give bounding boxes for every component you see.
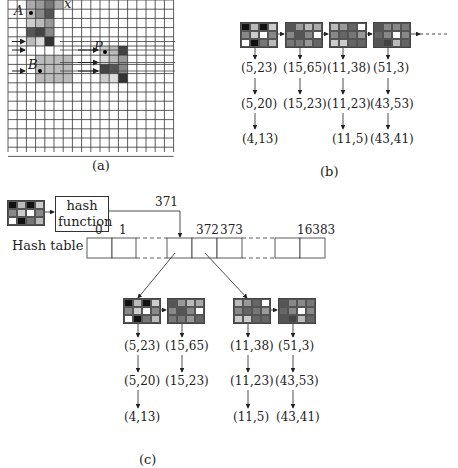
patch-cell <box>124 315 133 323</box>
shaded-cell <box>63 74 72 83</box>
patch-cell <box>17 201 26 209</box>
shaded-cell <box>45 64 54 73</box>
feature-patch <box>167 298 205 324</box>
hash-table-cell <box>300 238 325 258</box>
chain-entry: (4,13) <box>242 132 278 146</box>
patch-cell <box>304 23 313 31</box>
shaded-cell <box>36 18 45 27</box>
patch-cell <box>8 209 17 217</box>
shaded-cell <box>45 74 54 83</box>
patch-cell <box>252 307 261 315</box>
patch-cell <box>177 307 186 315</box>
hash-value: 371 <box>155 195 178 209</box>
patch-cell <box>286 23 295 31</box>
patch-cell <box>234 299 243 307</box>
patch-cell <box>357 23 366 31</box>
patch-cell <box>297 315 306 323</box>
chain-entry: (51,3) <box>373 61 409 75</box>
shaded-cell <box>45 9 54 18</box>
shaded-cell <box>26 28 35 37</box>
patch-cell <box>348 31 357 39</box>
feature-patch <box>373 22 411 48</box>
shaded-cell <box>45 0 54 9</box>
patch-cell <box>297 307 306 315</box>
query-patch <box>7 200 45 226</box>
shaded-cell <box>45 18 54 27</box>
shaded-cell <box>26 37 35 46</box>
patch-cell <box>348 23 357 31</box>
patch-cell <box>392 39 401 47</box>
patch-cell <box>250 31 259 39</box>
patch-cell <box>168 315 177 323</box>
feature-patch <box>240 22 278 48</box>
patch-cell <box>268 23 277 31</box>
patch-cell <box>288 315 297 323</box>
patch-cell <box>304 39 313 47</box>
patch-cell <box>186 307 195 315</box>
patch-cell <box>339 39 348 47</box>
patch-cell <box>313 39 322 47</box>
shaded-cell <box>63 55 72 64</box>
shaded-cell <box>26 0 35 9</box>
feature-patch <box>285 22 323 48</box>
patch-cell <box>142 299 151 307</box>
patch-cell <box>17 209 26 217</box>
caption-c: (c) <box>139 452 156 467</box>
point-label-p: P <box>94 40 103 53</box>
chain-entry: (43,53) <box>275 374 319 388</box>
chain-entry: (5,20) <box>241 97 277 111</box>
patch-cell <box>142 315 151 323</box>
patch-cell <box>252 299 261 307</box>
bucket-pointer-arrow <box>138 253 175 298</box>
patch-cell <box>261 315 270 323</box>
shaded-cell <box>36 9 45 18</box>
shaded-cell <box>54 74 63 83</box>
patch-cell <box>383 31 392 39</box>
caption-b: (b) <box>320 164 338 179</box>
index-label-372: 372 <box>196 223 219 237</box>
patch-cell <box>286 39 295 47</box>
patch-cell <box>261 299 270 307</box>
shaded-cell <box>118 74 127 83</box>
shaded-cell <box>118 46 127 55</box>
shaded-cell <box>36 74 45 83</box>
shaded-cell <box>109 64 118 73</box>
patch-cell <box>306 299 315 307</box>
patch-cell <box>306 307 315 315</box>
patch-cell <box>252 315 261 323</box>
chain-connectors-b <box>255 34 450 129</box>
chain-entry: (15,23) <box>283 97 327 111</box>
spatial-grid <box>8 0 175 156</box>
patch-cell <box>392 23 401 31</box>
chain-entry: (4,13) <box>124 410 160 424</box>
patch-cell <box>8 217 17 225</box>
point-label-a: A <box>14 4 23 17</box>
patch-cell <box>295 31 304 39</box>
chain-entry: (43,41) <box>370 132 414 146</box>
patch-cell <box>133 307 142 315</box>
patch-cell <box>142 307 151 315</box>
shaded-cell <box>100 55 109 64</box>
patch-cell <box>195 299 204 307</box>
shaded-cell <box>118 64 127 73</box>
chain-entry: (5,20) <box>124 374 160 388</box>
patch-cell <box>261 307 270 315</box>
patch-cell <box>339 23 348 31</box>
patch-cell <box>151 307 160 315</box>
chain-entry: (11,5) <box>332 132 368 146</box>
patch-cell <box>297 299 306 307</box>
patch-cell <box>313 23 322 31</box>
patch-cell <box>392 31 401 39</box>
patch-cell <box>279 307 288 315</box>
patch-cell <box>133 299 142 307</box>
patch-cell <box>330 23 339 31</box>
patch-cell <box>304 31 313 39</box>
patch-cell <box>401 39 410 47</box>
chain-entry: (51,3) <box>278 339 314 353</box>
patch-cell <box>288 299 297 307</box>
patch-cell <box>383 23 392 31</box>
patch-cell <box>26 201 35 209</box>
index-label-373: 373 <box>220 223 243 237</box>
patch-cell <box>195 315 204 323</box>
patch-cell <box>383 39 392 47</box>
